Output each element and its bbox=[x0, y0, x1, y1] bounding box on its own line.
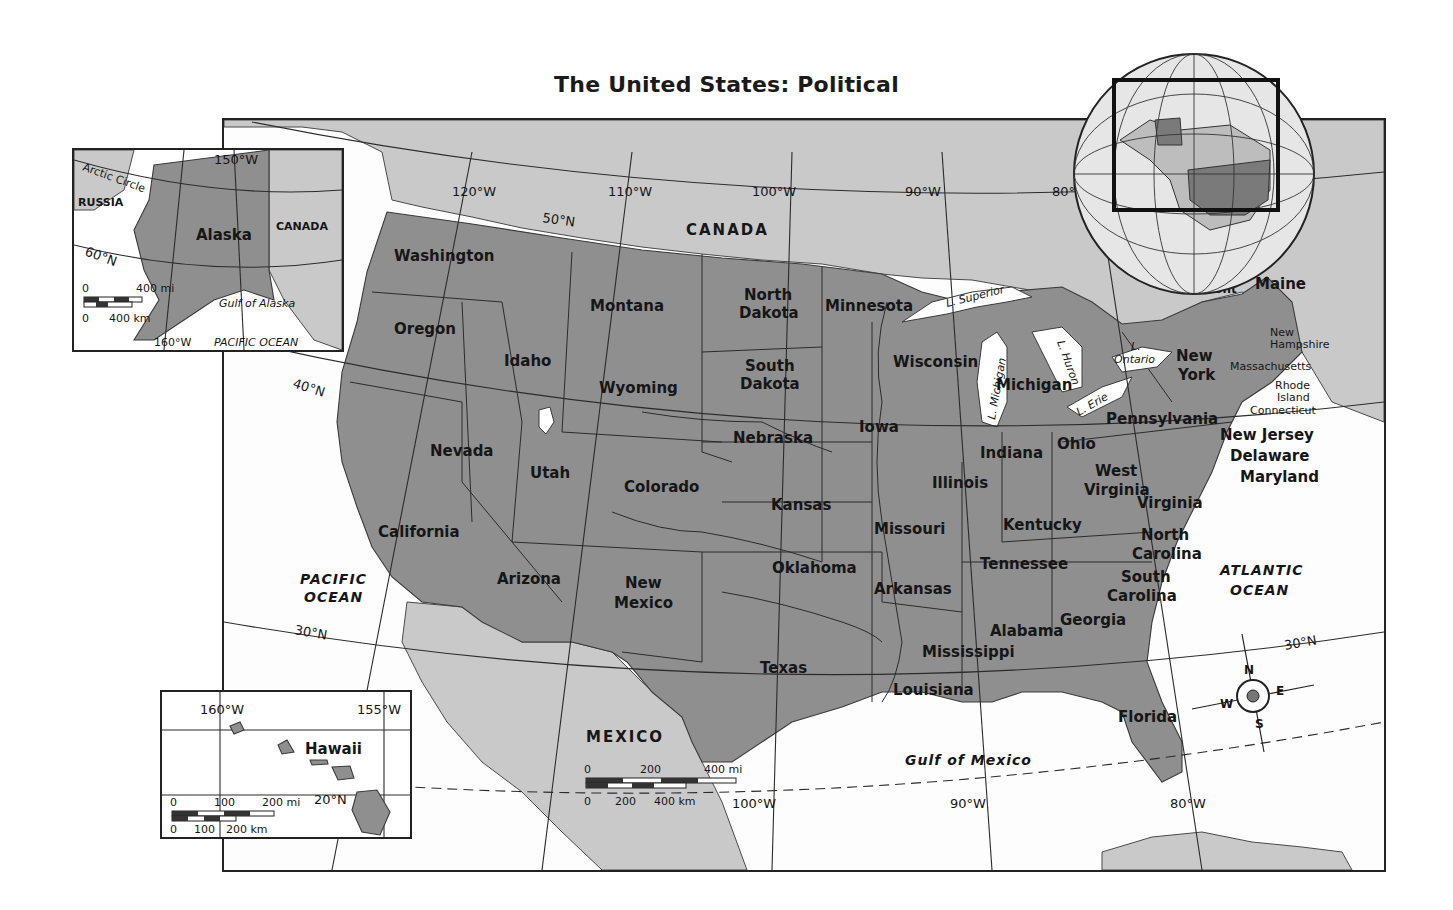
alaska-landmass bbox=[134, 150, 274, 340]
label-atlantic-1: ATLANTIC bbox=[1219, 562, 1304, 578]
canada-landmass-inset bbox=[269, 150, 342, 350]
label-lake-ontario-2: Ontario bbox=[1114, 353, 1155, 366]
label-oklahoma: Oklahoma bbox=[772, 559, 857, 577]
label-idaho: Idaho bbox=[504, 352, 551, 370]
label-connecticut: Connecticut bbox=[1250, 404, 1317, 417]
label-lon-80-bottom: 80°W bbox=[1170, 796, 1206, 811]
label-new-york-1: New bbox=[1176, 347, 1213, 365]
label-ohio: Ohio bbox=[1057, 435, 1096, 453]
locator-globe bbox=[1070, 50, 1318, 298]
label-kentucky: Kentucky bbox=[1003, 516, 1082, 534]
compass-s: S bbox=[1255, 717, 1264, 731]
label-mississippi: Mississippi bbox=[922, 643, 1015, 661]
label-delaware: Delaware bbox=[1230, 447, 1309, 465]
label-north-dakota-1: North bbox=[744, 286, 792, 304]
label-wyoming: Wyoming bbox=[599, 379, 678, 397]
label-lat-30-right: 30°N bbox=[1283, 632, 1318, 652]
oahu bbox=[278, 740, 294, 754]
hawaii-scale-km-200: 200 km bbox=[226, 823, 268, 836]
label-lon-160-hawaii: 160°W bbox=[200, 702, 244, 717]
kauai bbox=[230, 722, 244, 734]
label-colorado: Colorado bbox=[624, 478, 699, 496]
label-west-virginia-2: Virginia bbox=[1084, 481, 1150, 499]
label-pennsylvania: Pennsylvania bbox=[1106, 410, 1218, 428]
label-georgia: Georgia bbox=[1060, 611, 1126, 629]
hawaii-scale-mi-100: 100 bbox=[214, 796, 235, 809]
label-nebraska: Nebraska bbox=[733, 429, 813, 447]
label-north-dakota-2: Dakota bbox=[739, 304, 799, 322]
label-tennessee: Tennessee bbox=[980, 555, 1068, 573]
label-lon-100-bottom: 100°W bbox=[732, 796, 776, 811]
scale-km-200: 200 bbox=[615, 795, 636, 808]
label-lat-60: 60°N bbox=[83, 244, 119, 269]
label-washington: Washington bbox=[394, 247, 494, 265]
label-louisiana: Louisiana bbox=[893, 681, 974, 699]
label-russia: RUSSIA bbox=[78, 196, 124, 209]
compass-rose-icon: N S E W bbox=[1192, 634, 1314, 752]
label-lon-120: 120°W bbox=[452, 184, 496, 199]
label-canada: CANADA bbox=[686, 221, 769, 239]
label-missouri: Missouri bbox=[874, 520, 945, 538]
scale-mi-200: 200 bbox=[640, 763, 661, 776]
label-canada-inset: CANADA bbox=[276, 220, 328, 233]
label-north-carolina-2: Carolina bbox=[1132, 545, 1202, 563]
label-minnesota: Minnesota bbox=[825, 297, 913, 315]
label-lat-20: 20°N bbox=[314, 792, 347, 807]
compass-e: E bbox=[1276, 684, 1284, 698]
label-kansas: Kansas bbox=[771, 496, 831, 514]
label-west-virginia-1: West bbox=[1095, 462, 1137, 480]
label-new-hampshire-2: Hampshire bbox=[1270, 338, 1330, 351]
label-new-jersey: New Jersey bbox=[1220, 426, 1314, 444]
label-north-carolina-1: North bbox=[1141, 526, 1189, 544]
label-south-carolina-2: Carolina bbox=[1107, 587, 1177, 605]
compass-n: N bbox=[1244, 663, 1254, 677]
label-iowa: Iowa bbox=[859, 418, 899, 436]
label-atlantic-2: OCEAN bbox=[1230, 582, 1289, 598]
label-illinois: Illinois bbox=[932, 474, 988, 492]
label-lon-110: 110°W bbox=[608, 184, 652, 199]
label-arizona: Arizona bbox=[497, 570, 561, 588]
label-alaska: Alaska bbox=[196, 226, 252, 244]
label-lon-160: 160°W bbox=[154, 336, 191, 349]
molokai bbox=[310, 760, 328, 765]
label-utah: Utah bbox=[530, 464, 570, 482]
alaska-inset: Arctic Circle RUSSIA CANADA 150°W Alaska… bbox=[72, 148, 344, 352]
label-gulf-of-alaska: Gulf of Alaska bbox=[219, 297, 295, 310]
label-hawaii: Hawaii bbox=[305, 740, 362, 758]
label-mexico: MEXICO bbox=[586, 728, 664, 746]
label-pacific-2: OCEAN bbox=[304, 589, 363, 605]
scale-mi-0: 0 bbox=[584, 763, 591, 776]
hawaii-scale-mi-200: 200 mi bbox=[262, 796, 300, 809]
label-new-mexico-2: Mexico bbox=[614, 594, 673, 612]
label-new-mexico-1: New bbox=[625, 574, 662, 592]
hawaii-inset: 160°W 155°W Hawaii 20°N 0 100 200 mi 0 1… bbox=[160, 690, 412, 839]
label-lat-30-left: 30°N bbox=[293, 622, 328, 642]
label-california: California bbox=[378, 523, 460, 541]
label-montana: Montana bbox=[590, 297, 664, 315]
cuba-landmass bbox=[1102, 832, 1352, 870]
scale-km-0: 0 bbox=[584, 795, 591, 808]
label-lake-ontario-1: L. bbox=[1131, 340, 1141, 353]
label-lat-40: 40°N bbox=[291, 376, 327, 400]
alaska-scale-mi-0: 0 bbox=[82, 282, 89, 295]
label-lon-100-top: 100°W bbox=[752, 184, 796, 199]
label-pacific-1: PACIFIC bbox=[300, 571, 367, 587]
alaska-scale-mi: 400 mi bbox=[136, 282, 174, 295]
label-pacific-inset: PACIFIC OCEAN bbox=[214, 336, 298, 349]
label-arkansas: Arkansas bbox=[874, 580, 952, 598]
label-oregon: Oregon bbox=[394, 320, 456, 338]
alaska-scale-km: 400 km bbox=[109, 312, 151, 325]
hawaii-scale-km-100: 100 bbox=[194, 823, 215, 836]
hawaii-scale-mi-0: 0 bbox=[170, 796, 177, 809]
scale-mi-400: 400 mi bbox=[704, 763, 742, 776]
label-texas: Texas bbox=[760, 659, 807, 677]
label-lon-150: 150°W bbox=[214, 152, 258, 167]
label-lon-90-bottom: 90°W bbox=[950, 796, 986, 811]
alaska-scale-km-0: 0 bbox=[82, 312, 89, 325]
label-south-dakota-2: Dakota bbox=[740, 375, 800, 393]
label-lon-90-top: 90°W bbox=[905, 184, 941, 199]
label-nevada: Nevada bbox=[430, 442, 494, 460]
label-gulf-of-mexico: Gulf of Mexico bbox=[905, 752, 1032, 768]
label-michigan: Michigan bbox=[996, 376, 1072, 394]
maui bbox=[332, 766, 354, 780]
